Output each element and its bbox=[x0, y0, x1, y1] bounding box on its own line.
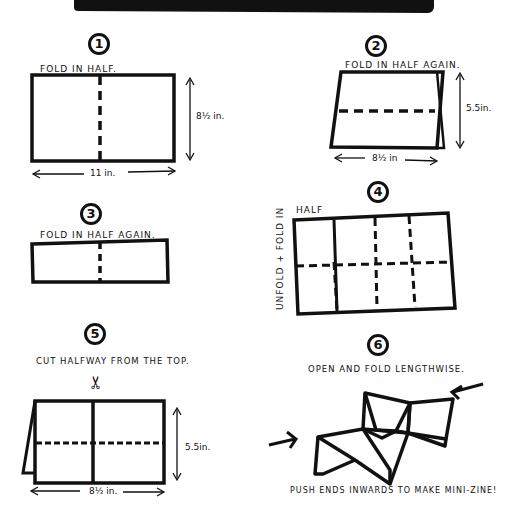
step-6-footer: PUSH ENDS INWARDS TO MAKE MINI-ZINE! bbox=[290, 486, 497, 495]
step-6-diagram bbox=[0, 0, 524, 526]
